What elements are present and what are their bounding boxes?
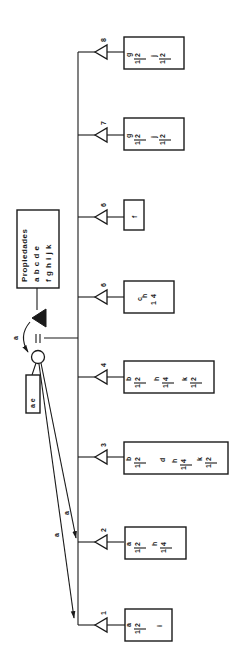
branch-number: 2 <box>100 528 107 532</box>
svg-text:2: 2 <box>159 53 166 57</box>
branch-7: 7 1 2 g 1 2 j <box>78 118 184 150</box>
svg-text:i: i <box>156 625 163 627</box>
svg-text:2: 2 <box>205 457 212 461</box>
svg-text:b: b <box>125 377 132 381</box>
svg-text:2: 2 <box>134 377 141 381</box>
svg-text:2: 2 <box>159 134 166 138</box>
branch-3: 3 1 2 b d 1 4 h 1 2 k <box>78 442 228 474</box>
svg-text:2: 2 <box>134 134 141 138</box>
black-triangle-icon <box>32 309 46 327</box>
svg-text:2: 2 <box>134 457 141 461</box>
properties-box: Propiedades a b c d e f g h i j k <box>17 210 59 310</box>
svg-text:j: j <box>150 136 158 139</box>
svg-text:1: 1 <box>190 384 197 388</box>
arrow-to-branch-2 <box>41 363 76 538</box>
branch-6: 6 f <box>78 200 144 230</box>
svg-text:j: j <box>150 55 158 58</box>
svg-text:1: 1 <box>180 466 187 470</box>
branch-4: 4 1 2 b 1 4 h 1 2 k <box>78 361 214 393</box>
arrow-label-to-2: a <box>63 511 70 515</box>
properties-row2: f g h i j k <box>44 244 53 282</box>
svg-text:1: 1 <box>159 60 166 64</box>
svg-text:a: a <box>125 542 132 546</box>
svg-text:k: k <box>181 377 188 381</box>
branch-number: 6 <box>100 283 107 287</box>
triangle-icon <box>95 370 107 384</box>
svg-text:1: 1 <box>162 384 169 388</box>
branch-number: 3 <box>100 443 107 447</box>
triangle-icon <box>95 450 107 464</box>
source-node: a a e <box>12 309 46 413</box>
diagram-canvas: Propiedades a b c d e f g h i j k a a e … <box>0 0 252 659</box>
arrow-label-to-1: a <box>53 533 60 537</box>
svg-text:g: g <box>125 53 133 57</box>
svg-text:1: 1 <box>160 549 167 553</box>
svg-text:1: 1 <box>134 141 141 145</box>
branch-number: 1 <box>100 611 107 615</box>
branch-2: 2 1 2 a 1 4 h <box>78 527 186 559</box>
svg-text:2: 2 <box>134 53 141 57</box>
svg-text:1: 1 <box>205 464 212 468</box>
svg-text:h: h <box>171 459 178 463</box>
svg-text:2: 2 <box>134 623 141 627</box>
svg-text:1: 1 <box>134 60 141 64</box>
svg-text:4: 4 <box>150 294 157 298</box>
svg-text:k: k <box>196 457 203 461</box>
svg-text:4: 4 <box>160 542 167 546</box>
svg-text:2: 2 <box>134 542 141 546</box>
triangle-icon <box>95 618 107 632</box>
branch-1: 1 1 2 a i <box>78 609 172 641</box>
svg-text:4: 4 <box>162 377 169 381</box>
svg-text:1: 1 <box>134 384 141 388</box>
svg-text:g: g <box>125 134 133 138</box>
circle-node-icon <box>32 351 45 364</box>
properties-title: Propiedades <box>20 228 29 282</box>
triangle-icon <box>95 535 107 549</box>
svg-text:1: 1 <box>134 464 141 468</box>
svg-text:1: 1 <box>150 301 157 305</box>
branch-number: 4 <box>100 363 107 367</box>
svg-text:2: 2 <box>190 377 197 381</box>
triangle-icon <box>95 290 107 304</box>
svg-text:1: 1 <box>159 141 166 145</box>
branch-number: 6 <box>100 203 107 207</box>
svg-text:4: 4 <box>180 459 187 463</box>
svg-text:1: 1 <box>134 630 141 634</box>
curved-arrow-label: a <box>12 336 19 340</box>
triangle-icon <box>95 210 107 224</box>
svg-text:a: a <box>125 623 132 627</box>
svg-text:b: b <box>125 457 132 461</box>
svg-text:1: 1 <box>134 549 141 553</box>
svg-text:h: h <box>141 294 148 298</box>
triangle-icon <box>95 45 107 59</box>
branch-8: 8 1 2 g 1 2 j <box>78 37 184 69</box>
curved-arrow <box>23 322 30 352</box>
ae-box-label: a e <box>29 398 36 408</box>
svg-text:d: d <box>159 458 166 462</box>
branch-number: 8 <box>100 38 107 42</box>
triangle-icon <box>95 128 107 142</box>
svg-text:h: h <box>151 542 158 546</box>
arrow-to-branch-1 <box>39 364 74 618</box>
properties-row1: a b c d e <box>32 245 41 282</box>
branch-5: 6 c 1 4 h <box>78 281 174 313</box>
branch-number: 7 <box>100 121 107 125</box>
svg-text:h: h <box>153 377 160 381</box>
